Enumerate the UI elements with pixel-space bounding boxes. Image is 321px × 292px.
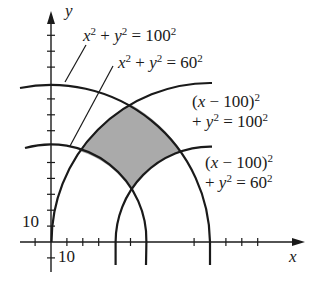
y-tick-label: 10 bbox=[22, 213, 39, 231]
leader-line-c1 bbox=[65, 45, 86, 82]
y-axis-arrow-icon bbox=[47, 11, 55, 24]
x-tick-label: 10 bbox=[58, 248, 75, 266]
label-circle-x2-y2-60: x2 + y2 = 602 bbox=[118, 54, 203, 72]
x-axis-label: x bbox=[289, 248, 297, 266]
shaded-intersection-region bbox=[80, 104, 182, 189]
label-circle-x2-y2-100: x2 + y2 = 1002 bbox=[83, 27, 176, 45]
label-circle-x-100-60: (x − 100)2 + y2 = 602 bbox=[205, 154, 273, 192]
x-axis-arrow-icon bbox=[292, 238, 305, 246]
label-circle-x-100-100: (x − 100)2 + y2 = 1002 bbox=[192, 93, 268, 131]
y-axis-label: y bbox=[65, 2, 73, 20]
